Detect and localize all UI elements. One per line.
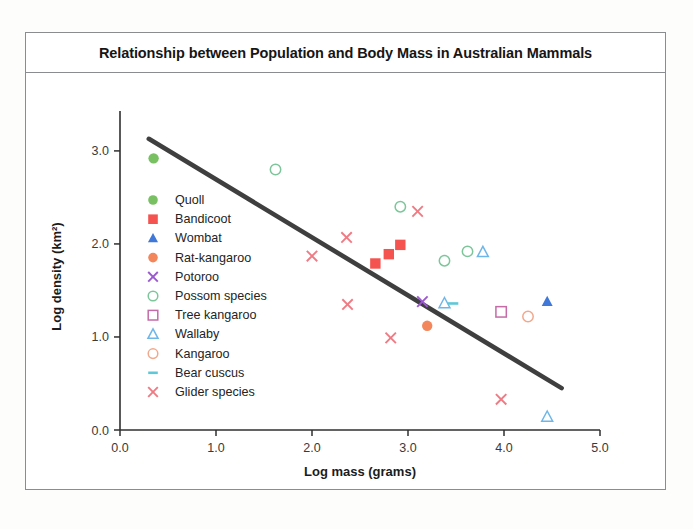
data-point <box>542 296 553 306</box>
legend-label-bandicoot: Bandicoot <box>175 212 232 226</box>
legend-marker-possom-species-glyph <box>148 291 158 301</box>
legend-marker-kangaroo <box>148 349 158 359</box>
legend-label-wallaby: Wallaby <box>175 327 220 341</box>
data-point-glyph <box>370 258 380 268</box>
scatter-chart: 0.01.02.03.04.05.00.01.02.03.0 QuollBand… <box>25 32 666 490</box>
x-tick-label: 4.0 <box>495 441 512 455</box>
legend-item-kangaroo[interactable]: Kangaroo <box>148 347 229 361</box>
series-quoll <box>148 153 158 163</box>
legend-item-glider-species[interactable]: Glider species <box>148 385 255 399</box>
legend-marker-wallaby <box>148 329 158 338</box>
data-point <box>270 164 280 174</box>
plot-area: 0.01.02.03.04.05.00.01.02.03.0 QuollBand… <box>25 32 666 490</box>
legend-item-potoroo[interactable]: Potoroo <box>148 270 219 284</box>
legend-label-bear-cuscus: Bear cuscus <box>175 366 244 380</box>
legend-marker-kangaroo-glyph <box>148 349 158 359</box>
legend-marker-rat-kangaroo <box>148 253 158 263</box>
legend-marker-wombat-glyph <box>148 233 158 242</box>
legend-label-wombat: Wombat <box>175 231 222 245</box>
data-point-glyph <box>270 164 280 174</box>
legend-label-rat-kangaroo: Rat-kangaroo <box>175 251 251 265</box>
legend-marker-tree-kangaroo <box>148 310 158 320</box>
data-point-glyph <box>395 240 405 250</box>
data-point <box>395 240 405 250</box>
legend-marker-quoll-glyph <box>148 195 158 205</box>
legend-item-rat-kangaroo[interactable]: Rat-kangaroo <box>148 251 251 265</box>
data-point <box>386 333 396 343</box>
legend-marker-potoroo <box>148 272 158 282</box>
x-tick-label: 3.0 <box>399 441 416 455</box>
data-point <box>395 202 405 212</box>
x-tick-label: 2.0 <box>303 441 320 455</box>
legend-marker-wallaby-glyph <box>148 329 158 338</box>
legend-marker-tree-kangaroo-glyph <box>148 310 158 320</box>
data-point-glyph <box>523 311 533 321</box>
data-point-glyph <box>148 153 158 163</box>
x-tick-label: 5.0 <box>591 441 608 455</box>
data-point <box>422 321 432 331</box>
legend-marker-wombat <box>148 233 158 242</box>
legend-marker-bandicoot-glyph <box>148 214 158 224</box>
data-point <box>370 258 380 268</box>
series-bandicoot <box>370 240 405 269</box>
y-tick-label: 1.0 <box>92 330 109 344</box>
legend-label-kangaroo: Kangaroo <box>175 347 230 361</box>
legend-label-tree-kangaroo: Tree kangaroo <box>175 308 256 322</box>
data-point-glyph <box>496 307 506 317</box>
legend-label-possom-species: Possom species <box>175 289 267 303</box>
legend-label-quoll: Quoll <box>175 193 204 207</box>
x-tick-label: 0.0 <box>111 441 128 455</box>
legend-item-possom-species[interactable]: Possom species <box>148 289 267 303</box>
legend-item-tree-kangaroo[interactable]: Tree kangaroo <box>148 308 256 322</box>
data-point-glyph <box>395 202 405 212</box>
legend-marker-quoll <box>148 195 158 205</box>
legend-item-quoll[interactable]: Quoll <box>148 193 204 207</box>
y-tick-label: 0.0 <box>92 424 109 438</box>
series-wombat <box>542 296 553 306</box>
data-point <box>384 249 394 259</box>
data-point <box>496 307 506 317</box>
axes-group: 0.01.02.03.04.05.00.01.02.03.0 <box>92 111 609 455</box>
data-point <box>439 255 449 265</box>
series-glider-species <box>307 206 507 404</box>
series-kangaroo <box>523 311 533 321</box>
legend-item-bandicoot[interactable]: Bandicoot <box>148 212 231 226</box>
data-point-glyph <box>542 296 553 306</box>
data-point <box>342 299 352 309</box>
data-point <box>496 394 506 404</box>
data-point-glyph <box>542 411 553 421</box>
legend-label-potoroo: Potoroo <box>175 270 219 284</box>
data-point-glyph <box>477 246 488 256</box>
data-point <box>477 246 488 256</box>
legend-label-glider-species: Glider species <box>175 385 255 399</box>
data-point <box>523 311 533 321</box>
legend-marker-glider-species <box>148 387 158 397</box>
legend-marker-bandicoot <box>148 214 158 224</box>
data-point-glyph <box>439 255 449 265</box>
x-axis-title: Log mass (grams) <box>304 464 416 479</box>
data-point <box>462 246 472 256</box>
chart-legend: QuollBandicootWombatRat-kangarooPotorooP… <box>148 193 267 399</box>
series-possom-species <box>270 164 472 266</box>
y-axis-title: Log density (km²) <box>49 222 64 330</box>
legend-item-wombat[interactable]: Wombat <box>148 231 222 245</box>
series-rat-kangaroo <box>422 321 432 331</box>
legend-item-wallaby[interactable]: Wallaby <box>148 327 220 341</box>
data-point <box>542 411 553 421</box>
data-point <box>307 251 317 261</box>
data-point-glyph <box>422 321 432 331</box>
data-point <box>148 153 158 163</box>
chart-page: Relationship between Population and Body… <box>0 0 693 529</box>
x-tick-label: 1.0 <box>207 441 224 455</box>
data-point-glyph <box>462 246 472 256</box>
data-point <box>341 232 351 242</box>
data-point <box>412 206 422 216</box>
data-points-group <box>148 153 552 421</box>
y-tick-label: 3.0 <box>92 144 109 158</box>
legend-marker-possom-species <box>148 291 158 301</box>
legend-item-bear-cuscus[interactable]: Bear cuscus <box>148 366 244 380</box>
legend-marker-rat-kangaroo-glyph <box>148 253 158 263</box>
data-point-glyph <box>384 249 394 259</box>
series-tree-kangaroo <box>496 307 506 317</box>
y-tick-label: 2.0 <box>92 237 109 251</box>
